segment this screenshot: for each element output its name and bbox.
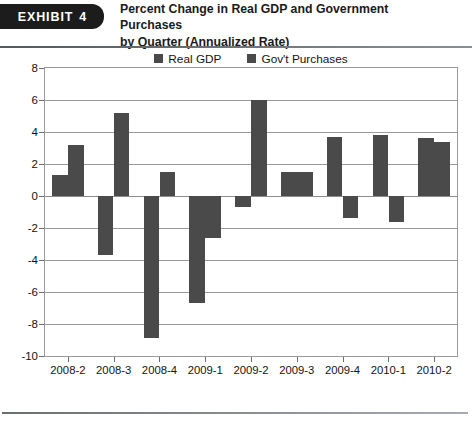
x-tick-mark [343,357,344,362]
exhibit-badge-number: 4 [79,10,86,24]
legend-label: Real GDP [168,52,221,66]
gridline-0 [45,196,457,197]
exhibit-title: Percent Change in Real GDP and Governmen… [120,1,450,50]
legend-label: Gov't Purchases [261,52,347,66]
footer-divider [2,412,468,414]
x-tick-mark [297,357,298,362]
x-tick-mark [205,357,206,362]
plot-area [44,67,458,357]
y-tick-label: -8 [4,318,38,330]
x-tick-label: 2010-2 [417,364,452,376]
x-tick-label: 2009-3 [279,364,314,376]
y-tick-label: -4 [4,254,38,266]
exhibit-badge-label: EXHIBIT [18,10,74,24]
bar-2009-1-gov-t-purchases [205,196,221,238]
x-tick-mark [388,357,389,362]
bar-2008-3-gov-t-purchases [114,113,130,196]
gridline-6 [45,100,457,101]
x-tick-mark [251,357,252,362]
bar-2009-4-real-gdp [327,137,343,196]
x-tick-label: 2010-1 [371,364,406,376]
gridline--8 [45,324,457,325]
x-tick-mark [68,357,69,362]
exhibit-badge: EXHIBIT 4 [0,4,104,29]
y-tick-label: 8 [4,62,38,74]
legend-swatch-icon [154,54,163,63]
gridline--2 [45,228,457,229]
x-tick-label: 2008-3 [96,364,131,376]
x-tick-label: 2008-2 [50,364,85,376]
legend-item-2: Gov't Purchases [247,52,347,66]
bar-2008-4-real-gdp [144,196,160,338]
bars-layer [45,68,457,356]
gridline-2 [45,164,457,165]
y-tick-label: 0 [4,190,38,202]
bar-2009-2-gov-t-purchases [251,100,267,196]
bar-2008-3-real-gdp [98,196,114,255]
x-tick-label: 2009-1 [188,364,223,376]
bar-2010-1-real-gdp [373,135,389,196]
legend-swatch-icon [247,54,256,63]
x-axis: 2008-22008-32008-42009-12009-22009-32009… [44,357,458,387]
chart-legend: Real GDPGov't Purchases [44,50,458,67]
bar-2008-2-real-gdp [52,175,68,196]
bar-2009-3-gov-t-purchases [297,172,313,196]
bar-2010-2-gov-t-purchases [434,142,450,196]
gridline--6 [45,292,457,293]
chart-container: Real GDPGov't Purchases 86420-2-4-6-8-10… [0,50,472,398]
gridline--4 [45,260,457,261]
exhibit-header: EXHIBIT 4 Percent Change in Real GDP and… [0,0,472,47]
bar-2010-2-real-gdp [418,138,434,196]
gridline-4 [45,132,457,133]
bar-2009-1-real-gdp [189,196,205,303]
y-tick-label: -6 [4,286,38,298]
x-tick-mark [114,357,115,362]
x-tick-label: 2008-4 [142,364,177,376]
legend-item-1: Real GDP [154,52,221,66]
x-tick-label: 2009-2 [233,364,268,376]
bar-2009-2-real-gdp [235,196,251,207]
header-divider [0,46,472,48]
bar-2010-1-gov-t-purchases [389,196,405,222]
x-tick-mark [159,357,160,362]
bar-2009-3-real-gdp [281,172,297,196]
x-tick-mark [434,357,435,362]
y-tick-label: 2 [4,158,38,170]
y-tick-label: 4 [4,126,38,138]
bar-2009-4-gov-t-purchases [343,196,359,218]
bar-2008-2-gov-t-purchases [68,145,84,196]
y-tick-label: -2 [4,222,38,234]
y-tick-label: -10 [4,350,38,362]
y-tick-label: 6 [4,94,38,106]
exhibit-title-line-1: Percent Change in Real GDP and Governmen… [120,1,450,34]
bar-2008-4-gov-t-purchases [160,172,176,196]
y-axis: 86420-2-4-6-8-10 [0,67,38,357]
x-tick-label: 2009-4 [325,364,360,376]
